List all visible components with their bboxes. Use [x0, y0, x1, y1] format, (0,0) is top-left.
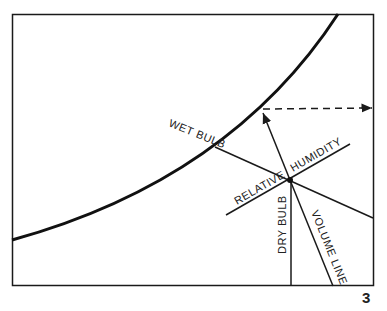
- state-point: [287, 177, 293, 183]
- volume-line-label: VOLUME LINE: [309, 208, 350, 286]
- psychrometric-diagram: WET BULB RELATIVE HUMIDITY DRY BULB VOLU…: [0, 0, 387, 311]
- wet-bulb-label: WET BULB: [167, 117, 227, 151]
- humidity-label: HUMIDITY: [288, 135, 344, 174]
- dry-bulb-label: DRY BULB: [276, 195, 288, 254]
- dashed-arrow: [263, 108, 372, 109]
- figure-number: 3: [362, 289, 370, 306]
